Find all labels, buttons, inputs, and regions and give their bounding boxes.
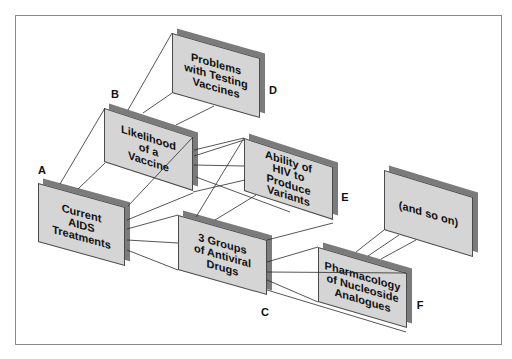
node-text-line: (and so on) [399,199,458,229]
label-e: E [341,191,348,203]
label-a: A [38,164,46,176]
label-d: D [269,84,277,96]
label-f: F [417,299,424,311]
label-b: B [111,88,119,100]
label-c: C [261,306,269,318]
